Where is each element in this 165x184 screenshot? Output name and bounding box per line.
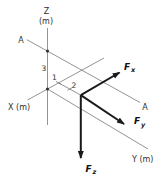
y-axis-line [48, 89, 149, 149]
fz-label: F [86, 164, 93, 174]
dimension-2: 2 [72, 81, 77, 90]
fx-arrow [81, 73, 120, 96]
origin-dot [46, 87, 49, 90]
dimension-1: 1 [52, 73, 57, 82]
section-label-a-top: A [18, 36, 24, 45]
fy-label: F [134, 116, 141, 126]
z-axis-unit-label: (m) [39, 17, 53, 26]
force-diagram-figure: Z (m) X (m) Y (m) A A 3 1 2 F x F y F z [0, 0, 165, 184]
diagram-svg: Z (m) X (m) Y (m) A A 3 1 2 F x F y F z [0, 0, 165, 184]
fz-label-subscript: z [92, 168, 97, 176]
fy-arrow [81, 95, 124, 124]
dimension-3: 3 [42, 64, 47, 73]
z-axis-label: Z [44, 7, 50, 16]
fx-label: F [124, 62, 131, 72]
x-axis-line [28, 58, 105, 100]
z3-point-dot [46, 49, 49, 52]
section-label-a-bottom: A [142, 103, 148, 112]
y-axis-label: Y (m) [131, 155, 153, 164]
x-axis-label: X (m) [8, 103, 30, 112]
fy-label-subscript: y [141, 121, 146, 129]
fx-label-subscript: x [130, 66, 136, 74]
